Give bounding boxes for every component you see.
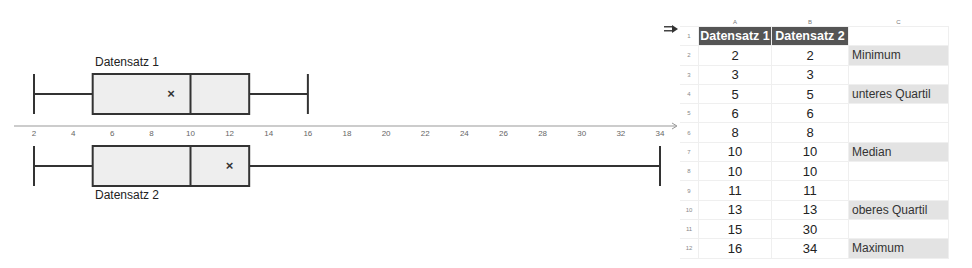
cell-c[interactable]: Maximum <box>849 239 949 258</box>
series-label: Datensatz 1 <box>95 55 159 69</box>
x-tick-label: 12 <box>225 129 234 138</box>
cell-c[interactable] <box>849 123 949 142</box>
cell-c[interactable] <box>849 104 949 123</box>
table-row: 333 <box>680 65 949 84</box>
cell-a[interactable]: 5 <box>699 84 772 103</box>
cell-c[interactable] <box>849 181 949 200</box>
cell-a[interactable]: Datensatz 1 <box>699 27 772 46</box>
row-number[interactable]: 2 <box>680 46 699 65</box>
table-row: 121634Maximum <box>680 239 949 258</box>
cell-b[interactable]: Datensatz 2 <box>772 27 849 46</box>
boxplot-chart: 246810121416182022242628303234×Datensatz… <box>0 0 680 268</box>
cell-b[interactable]: 6 <box>772 104 849 123</box>
cell-b[interactable]: 11 <box>772 181 849 200</box>
cell-c[interactable]: oberes Quartil <box>849 200 949 219</box>
row-number[interactable]: 8 <box>680 162 699 181</box>
cell-b[interactable]: 10 <box>772 162 849 181</box>
cell-b[interactable]: 5 <box>772 84 849 103</box>
spreadsheet-table: A B C 1Datensatz 1Datensatz 2222Minimum3… <box>680 17 949 259</box>
cell-c[interactable]: Minimum <box>849 46 949 65</box>
mean-marker-icon: × <box>226 158 234 173</box>
x-tick-label: 18 <box>343 129 352 138</box>
cell-a[interactable]: 11 <box>699 181 772 200</box>
table-row: 101313oberes Quartil <box>680 200 949 219</box>
cell-c[interactable] <box>849 27 949 46</box>
column-header-row: A B C <box>680 17 949 27</box>
row-number[interactable]: 9 <box>680 181 699 200</box>
column-header-b[interactable]: B <box>772 17 849 27</box>
table-row: 111530 <box>680 219 949 238</box>
x-tick-label: 30 <box>577 129 586 138</box>
table-row: 91111 <box>680 181 949 200</box>
x-tick-label: 34 <box>656 129 665 138</box>
table-row: 688 <box>680 123 949 142</box>
cell-b[interactable]: 3 <box>772 65 849 84</box>
row-number[interactable]: 4 <box>680 84 699 103</box>
x-tick-label: 32 <box>616 129 625 138</box>
cell-a[interactable]: 3 <box>699 65 772 84</box>
corner-cell[interactable] <box>680 17 699 27</box>
cell-b[interactable]: 2 <box>772 46 849 65</box>
series-label: Datensatz 2 <box>95 188 159 202</box>
table-row: 566 <box>680 104 949 123</box>
row-number[interactable]: 6 <box>680 123 699 142</box>
cell-a[interactable]: 16 <box>699 239 772 258</box>
x-tick-label: 6 <box>110 129 115 138</box>
cell-b[interactable]: 30 <box>772 219 849 238</box>
cell-a[interactable]: 10 <box>699 142 772 161</box>
table-row: 1Datensatz 1Datensatz 2 <box>680 27 949 46</box>
column-header-a[interactable]: A <box>699 17 772 27</box>
cell-c[interactable] <box>849 65 949 84</box>
x-tick-label: 22 <box>421 129 430 138</box>
x-tick-label: 26 <box>499 129 508 138</box>
cell-a[interactable]: 15 <box>699 219 772 238</box>
cell-b[interactable]: 8 <box>772 123 849 142</box>
x-tick-label: 20 <box>382 129 391 138</box>
x-tick-label: 8 <box>149 129 154 138</box>
row-number[interactable]: 3 <box>680 65 699 84</box>
row-number[interactable]: 1 <box>680 27 699 46</box>
x-tick-label: 10 <box>186 129 195 138</box>
row-number[interactable]: 5 <box>680 104 699 123</box>
x-tick-label: 24 <box>460 129 469 138</box>
column-header-c[interactable]: C <box>849 17 949 27</box>
table-row: 71010Median <box>680 142 949 161</box>
cell-b[interactable]: 13 <box>772 200 849 219</box>
mean-marker-icon: × <box>167 86 175 101</box>
table-row: 222Minimum <box>680 46 949 65</box>
x-tick-label: 16 <box>303 129 312 138</box>
cell-c[interactable] <box>849 162 949 181</box>
x-tick-label: 4 <box>71 129 76 138</box>
freeze-panes-icon[interactable] <box>664 24 680 36</box>
table-row: 455unteres Quartil <box>680 84 949 103</box>
cell-c[interactable]: unteres Quartil <box>849 84 949 103</box>
cell-b[interactable]: 10 <box>772 142 849 161</box>
row-number[interactable]: 11 <box>680 219 699 238</box>
cell-a[interactable]: 13 <box>699 200 772 219</box>
cell-c[interactable] <box>849 219 949 238</box>
row-number[interactable]: 10 <box>680 200 699 219</box>
cell-c[interactable]: Median <box>849 142 949 161</box>
row-number[interactable]: 7 <box>680 142 699 161</box>
x-tick-label: 14 <box>264 129 273 138</box>
table-row: 81010 <box>680 162 949 181</box>
cell-a[interactable]: 10 <box>699 162 772 181</box>
row-number[interactable]: 12 <box>680 239 699 258</box>
x-tick-label: 28 <box>538 129 547 138</box>
cell-a[interactable]: 6 <box>699 104 772 123</box>
cell-a[interactable]: 8 <box>699 123 772 142</box>
cell-b[interactable]: 34 <box>772 239 849 258</box>
x-tick-label: 2 <box>32 129 37 138</box>
cell-a[interactable]: 2 <box>699 46 772 65</box>
boxplot-svg: 246810121416182022242628303234×Datensatz… <box>0 0 680 268</box>
